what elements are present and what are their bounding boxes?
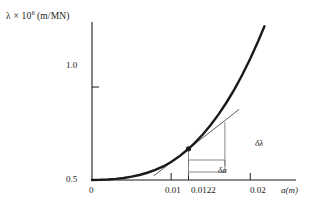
- x-axis-title: a(m): [281, 186, 298, 195]
- y-axis-title-prefix: λ × 10: [6, 11, 31, 21]
- tangent-point-marker: [186, 146, 191, 151]
- y-tick-label-1-0: 1.0: [66, 61, 77, 70]
- chart-plot-area: [0, 0, 318, 216]
- delta-lambda-label: δλ: [255, 139, 263, 148]
- x-tick-label-0-0122: 0.0122: [191, 186, 216, 195]
- delta-a-label: δa: [218, 166, 227, 175]
- y-axis-title: λ × 106(m/MN): [6, 10, 70, 22]
- chart-figure: λ × 106(m/MN) 1.0 0.5 0 0.01 0.0122 0.02…: [0, 0, 318, 216]
- y-axis-title-exponent: 6: [31, 9, 34, 16]
- x-tick-label-0-01: 0.01: [165, 186, 181, 195]
- y-tick-label-0-5: 0.5: [66, 175, 77, 184]
- x-tick-label-0: 0: [89, 186, 94, 195]
- y-axis-title-units: (m/MN): [37, 11, 70, 21]
- compliance-curve-path: [92, 26, 264, 180]
- x-tick-label-0-02: 0.02: [250, 186, 266, 195]
